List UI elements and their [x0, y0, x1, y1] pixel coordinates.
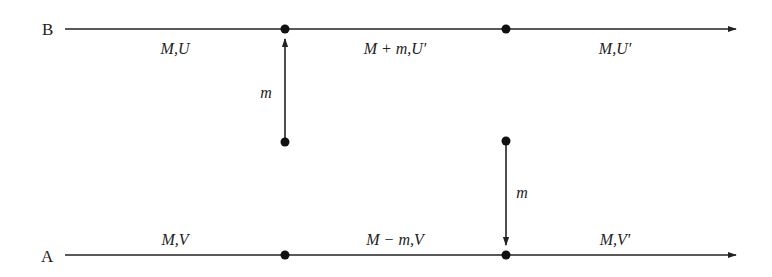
line-a-segment-1-label: M,V	[160, 231, 190, 248]
transfer-up-origin-dot	[281, 138, 290, 147]
line-b-segment-1-label: M,U	[160, 40, 191, 57]
line-b-segment-3-label: M,U′	[598, 40, 632, 57]
line-b-segment-2-label: M + m,U′	[363, 40, 427, 57]
line-b-label: B	[42, 20, 53, 39]
line-b: B M,U M + m,U′ M,U′	[42, 20, 736, 57]
transfer-down-label: m	[516, 184, 528, 201]
transfer-down-origin-dot	[502, 137, 511, 146]
line-a-segment-3-label: M,V′	[599, 231, 631, 248]
line-b-dot-2	[502, 25, 511, 34]
transfer-down: m	[502, 137, 528, 246]
line-a-dot-1	[281, 251, 290, 260]
line-a-label: A	[41, 247, 54, 266]
line-a-dot-2	[502, 251, 511, 260]
transfer-up: m	[260, 39, 289, 147]
line-a-segment-2-label: M − m,V	[365, 231, 426, 248]
transfer-up-label: m	[260, 84, 272, 101]
diagram-canvas: B M,U M + m,U′ M,U′ m m A M,V M − m,V M,…	[0, 0, 772, 277]
line-a: A M,V M − m,V M,V′	[41, 231, 736, 266]
line-b-dot-1	[281, 25, 290, 34]
